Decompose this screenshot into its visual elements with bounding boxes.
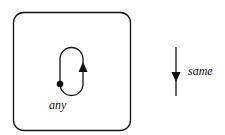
up-arrowhead-icon [79,62,88,72]
rounded-box [14,13,131,131]
diagram-canvas: any same [0,0,225,135]
start-dot [57,81,64,88]
any-label: any [49,98,67,112]
same-label: same [188,64,213,78]
down-arrowhead-icon [172,72,181,82]
down-arrow-icon [172,47,181,96]
loop-icon [57,48,88,96]
